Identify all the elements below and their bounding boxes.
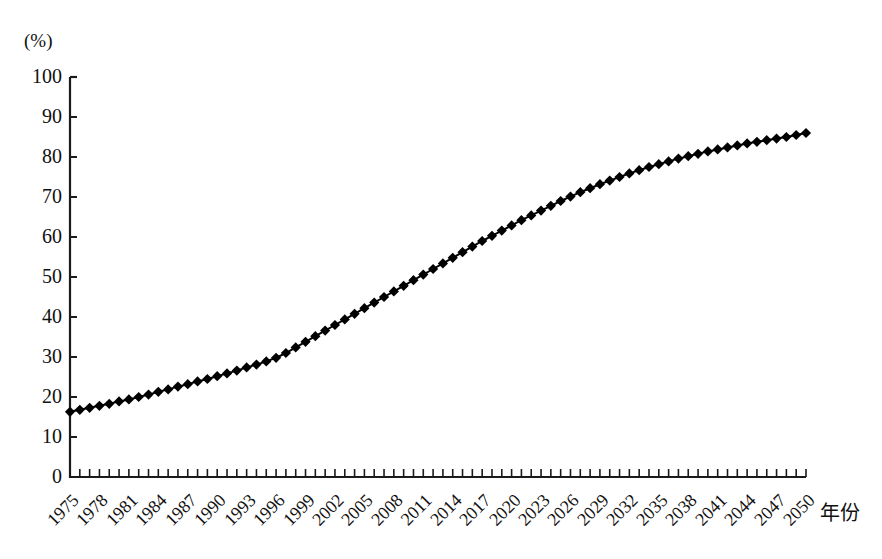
data-point-marker: [94, 401, 104, 411]
data-point-marker: [251, 360, 261, 370]
data-point-marker: [556, 196, 566, 206]
data-point-marker: [487, 231, 497, 241]
data-point-marker: [732, 140, 742, 150]
data-point-marker: [330, 320, 340, 330]
data-point-marker: [428, 264, 438, 274]
data-point-marker: [379, 292, 389, 302]
data-point-marker: [683, 151, 693, 161]
y-axis-tick-label: 100: [10, 65, 62, 88]
data-point-marker: [65, 407, 75, 417]
data-point-marker: [477, 236, 487, 246]
data-point-marker: [516, 215, 526, 225]
data-point-marker: [722, 142, 732, 152]
data-point-marker: [232, 366, 242, 376]
data-point-marker: [595, 179, 605, 189]
data-point-marker: [791, 130, 801, 140]
data-point-marker: [134, 392, 144, 402]
y-axis-tick-label: 40: [10, 305, 62, 328]
y-axis-tick-label: 60: [10, 225, 62, 248]
data-point-marker: [192, 376, 202, 386]
data-point-marker: [497, 226, 507, 236]
data-point-marker: [222, 368, 232, 378]
data-point-marker: [526, 210, 536, 220]
y-axis-tick-label: 10: [10, 425, 62, 448]
data-point-marker: [349, 309, 359, 319]
data-point-marker: [693, 149, 703, 159]
data-point-marker: [153, 387, 163, 397]
data-point-marker: [418, 270, 428, 280]
data-point-marker: [124, 394, 134, 404]
y-axis-tick-label: 70: [10, 185, 62, 208]
data-point-marker: [536, 206, 546, 216]
data-point-marker: [310, 331, 320, 341]
data-point-marker: [104, 399, 114, 409]
data-point-marker: [291, 342, 301, 352]
data-point-marker: [713, 144, 723, 154]
data-point-marker: [457, 247, 467, 257]
line-chart: (%) 年份 010203040506070809010019751978198…: [0, 0, 882, 559]
data-point-marker: [389, 286, 399, 296]
y-axis-tick-label: 20: [10, 385, 62, 408]
data-point-marker: [399, 281, 409, 291]
data-point-marker: [369, 298, 379, 308]
data-point-marker: [585, 183, 595, 193]
data-point-marker: [408, 275, 418, 285]
data-point-marker: [242, 362, 252, 372]
data-point-marker: [624, 168, 634, 178]
data-point-marker: [703, 146, 713, 156]
data-point-marker: [438, 258, 448, 268]
data-point-marker: [664, 156, 674, 166]
data-point-marker: [634, 165, 644, 175]
data-point-marker: [75, 405, 85, 415]
data-point-marker: [173, 382, 183, 392]
data-point-marker: [261, 356, 271, 366]
data-point-marker: [752, 137, 762, 147]
data-point-marker: [771, 134, 781, 144]
y-axis-tick-label: 80: [10, 145, 62, 168]
data-point-marker: [143, 390, 153, 400]
data-point-marker: [300, 337, 310, 347]
chart-canvas: [0, 0, 882, 559]
data-series-line: [70, 133, 806, 412]
y-axis-tick-label: 90: [10, 105, 62, 128]
data-point-marker: [605, 176, 615, 186]
y-axis-tick-label: 0: [10, 465, 62, 488]
data-point-marker: [163, 384, 173, 394]
data-point-marker: [673, 154, 683, 164]
data-point-marker: [565, 192, 575, 202]
data-point-marker: [614, 172, 624, 182]
data-point-marker: [114, 396, 124, 406]
data-point-marker: [281, 348, 291, 358]
data-point-marker: [546, 201, 556, 211]
axis-lines: [70, 77, 806, 477]
data-point-marker: [801, 128, 811, 138]
data-point-marker: [183, 379, 193, 389]
data-point-marker: [644, 162, 654, 172]
data-point-marker: [467, 242, 477, 252]
data-point-marker: [742, 138, 752, 148]
data-point-marker: [359, 303, 369, 313]
data-point-marker: [448, 253, 458, 263]
data-point-marker: [271, 353, 281, 363]
data-point-marker: [575, 187, 585, 197]
data-point-marker: [320, 326, 330, 336]
data-point-marker: [654, 159, 664, 169]
y-axis-tick-label: 30: [10, 345, 62, 368]
data-point-marker: [762, 135, 772, 145]
data-point-marker: [85, 403, 95, 413]
data-point-marker: [507, 220, 517, 230]
data-point-marker: [781, 132, 791, 142]
data-point-marker: [202, 374, 212, 384]
data-point-marker: [212, 371, 222, 381]
y-axis-tick-label: 50: [10, 265, 62, 288]
data-point-marker: [340, 314, 350, 324]
